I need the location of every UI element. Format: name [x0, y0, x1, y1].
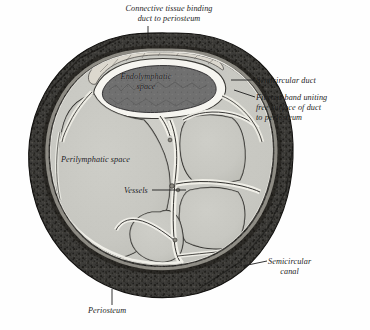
- perilymph-chamber-upper-right: [180, 115, 245, 183]
- anatomy-figure: Connective tissue binding duct to perios…: [0, 0, 370, 330]
- label-semicircular-canal: Semicircular canal: [268, 257, 311, 277]
- label-vessels: Vessels: [124, 186, 148, 196]
- label-periosteum: Periosteum: [88, 306, 126, 316]
- illustration-canvas: [0, 0, 370, 330]
- label-perilymphatic-space: Perilymphatic space: [61, 155, 130, 165]
- label-fibrous-band: Fibrous band uniting free surface of duc…: [256, 93, 327, 124]
- label-semicircular-duct: Semicircular duct: [256, 76, 316, 86]
- label-connective-tissue: Connective tissue binding duct to perios…: [104, 4, 234, 24]
- label-endolymphatic-space: Endolymphatic space: [94, 72, 198, 92]
